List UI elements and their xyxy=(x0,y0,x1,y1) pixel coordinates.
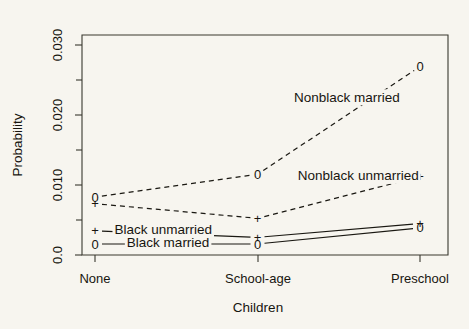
probability-line-chart: 0.0 0.010 0.020 0.030 Probability None S… xyxy=(0,0,469,329)
y-tick-label-3: 0.030 xyxy=(50,29,65,62)
x-axis-tick-labels: None School-age Preschool xyxy=(79,271,449,286)
x-tick-label-1: School-age xyxy=(225,271,291,286)
data-point-marker: + xyxy=(91,196,99,211)
y-tick-label-2: 0.020 xyxy=(50,99,65,132)
x-axis-ticks xyxy=(95,255,420,262)
x-tick-label-0: None xyxy=(79,271,110,286)
series-label-layer: Nonblack marriedNonblack unmarriedBlack … xyxy=(112,89,420,250)
data-point-marker: 0 xyxy=(416,59,423,74)
y-axis-title: Probability xyxy=(10,113,25,176)
data-point-marker: 0 xyxy=(416,220,423,235)
y-axis-ticks xyxy=(75,45,82,255)
data-point-marker: 0 xyxy=(254,167,261,182)
x-axis-title: Children xyxy=(233,300,283,315)
chart-container: 0.0 0.010 0.020 0.030 Probability None S… xyxy=(0,0,469,329)
series-annotation-label: Nonblack married xyxy=(294,90,400,105)
data-point-marker: + xyxy=(254,211,262,226)
x-tick-label-2: Preschool xyxy=(391,271,449,286)
y-tick-label-1: 0.010 xyxy=(50,169,65,202)
data-point-marker: 0 xyxy=(91,237,98,252)
y-tick-label-0: 0.0 xyxy=(50,246,65,264)
data-point-marker: 0 xyxy=(254,237,261,252)
y-axis-tick-labels: 0.0 0.010 0.020 0.030 xyxy=(50,29,65,264)
series-annotation-label: Black married xyxy=(127,235,210,250)
series-annotation-label: Nonblack unmarried xyxy=(298,168,419,183)
